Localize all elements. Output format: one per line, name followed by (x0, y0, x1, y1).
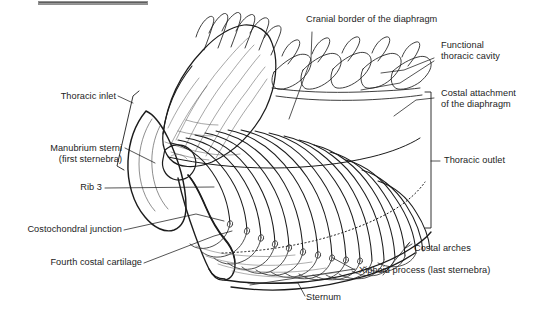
sternum (178, 175, 235, 280)
label-costal-attachment-line1: Costal attachment (441, 88, 516, 99)
manubrium-sterni (162, 145, 195, 180)
label-rib-3: Rib 3 (8, 182, 102, 193)
thoracic-vertebrae (196, 12, 431, 100)
diaphragm-costal-attachment-dotted (222, 182, 425, 253)
label-manubrium-sterni-line1: Manubrium sterni (8, 143, 122, 154)
thoracic-outlet-bracket (425, 92, 431, 228)
label-functional-thoracic-cavity-line2: thoracic cavity (441, 51, 500, 62)
label-manubrium-sterni-line2: (first sternebra) (8, 154, 122, 165)
label-thoracic-outlet: Thoracic outlet (444, 155, 505, 166)
anatomy-figure: Cranial border of the diaphragm Function… (0, 0, 544, 321)
dorsal-outline (163, 66, 192, 134)
label-functional-thoracic-cavity-line1: Functional (441, 40, 484, 51)
label-thoracic-inlet: Thoracic inlet (8, 91, 116, 102)
label-costochondral-junction: Costochondral junction (6, 224, 122, 235)
label-costal-attachment-line2: of the diaphragm (441, 99, 511, 110)
first-rib-thoracic-inlet (128, 111, 186, 231)
label-fourth-costal-cartilage: Fourth costal cartilage (6, 257, 142, 268)
label-cranial-border-of-diaphragm: Cranial border of the diaphragm (306, 14, 437, 25)
label-xiphoid-process: Xiphoid process (last sternebra) (359, 265, 490, 276)
ribs-bony-part (171, 130, 430, 261)
label-costal-arches: Costal arches (414, 243, 471, 254)
costal-arch (225, 232, 431, 290)
label-sternum: Sternum (306, 292, 341, 303)
